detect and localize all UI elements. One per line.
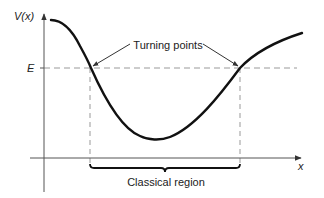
classical-region-label: Classical region — [127, 176, 205, 188]
potential-diagram: V(x) x E Turning points Classical region — [0, 0, 324, 198]
x-axis-label: x — [297, 160, 304, 172]
classical-region-brace — [90, 164, 240, 172]
turning-points-label: Turning points — [133, 39, 203, 51]
potential-curve — [51, 20, 302, 140]
pointer-left — [93, 44, 130, 66]
y-axis-label: V(x) — [14, 10, 35, 22]
energy-label: E — [27, 62, 35, 74]
pointer-right — [203, 44, 238, 66]
